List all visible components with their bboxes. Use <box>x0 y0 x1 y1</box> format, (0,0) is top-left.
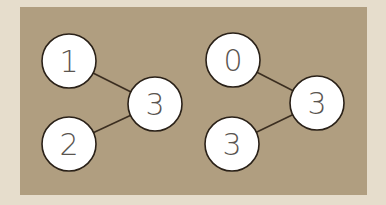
node-left-hub: 3 <box>128 77 182 131</box>
node-label: 3 <box>145 87 164 122</box>
node-label: 0 <box>223 43 242 78</box>
node-right-top: 0 <box>206 33 260 87</box>
node-right-hub: 3 <box>290 76 344 130</box>
graph-right: 0 3 3 <box>205 33 344 171</box>
node-label: 2 <box>59 127 78 162</box>
graph-canvas: 1 3 2 0 3 3 <box>0 0 386 205</box>
node-left-bottom: 2 <box>42 117 96 171</box>
node-left-top: 1 <box>42 34 96 88</box>
node-label: 3 <box>222 127 241 162</box>
graph-left: 1 3 2 <box>42 34 182 171</box>
node-right-bottom: 3 <box>205 117 259 171</box>
node-label: 3 <box>307 86 326 121</box>
node-label: 1 <box>59 44 78 79</box>
